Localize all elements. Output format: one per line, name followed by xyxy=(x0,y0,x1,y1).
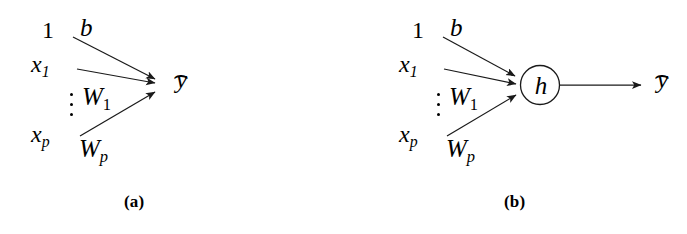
xp-input-label: xp xyxy=(31,122,50,146)
xp-base: x xyxy=(399,121,410,147)
dot xyxy=(70,93,73,96)
panel-a: 1 x1 xp b W1 Wp ⌢y (a) xyxy=(0,0,344,234)
wp-weight-label: Wp xyxy=(79,136,108,161)
x1-subscript: 1 xyxy=(42,63,50,80)
x1-subscript: 1 xyxy=(410,63,418,80)
x1-base: x xyxy=(31,51,42,77)
vertical-dots xyxy=(70,93,73,123)
dot xyxy=(70,103,73,106)
edge-bias xyxy=(443,37,515,76)
xp-base: x xyxy=(31,121,42,147)
x1-input-label: x1 xyxy=(31,52,50,76)
edge-bias xyxy=(73,37,155,79)
w1-weight-label: W1 xyxy=(449,84,478,109)
x1-base: x xyxy=(399,51,410,77)
wp-subscript: p xyxy=(467,147,475,166)
dot xyxy=(437,93,440,96)
wp-weight-label: Wp xyxy=(446,136,475,161)
w1-subscript: 1 xyxy=(470,95,478,114)
xp-input-label: xp xyxy=(399,122,418,146)
bias-weight-label: b xyxy=(450,15,463,40)
y-hat-wrap: ⌢y xyxy=(176,67,187,92)
x1-input-label: x1 xyxy=(399,52,418,76)
w1-base: W xyxy=(82,83,103,110)
wp-base: W xyxy=(79,135,100,162)
y-hat-wrap: ⌢y xyxy=(657,67,668,92)
dot xyxy=(437,103,440,106)
neural-unit-figure: 1 x1 xp b W1 Wp ⌢y (a) xyxy=(0,0,687,234)
xp-subscript: p xyxy=(42,133,50,150)
panel-a-caption: (a) xyxy=(124,192,144,212)
hidden-unit-label: h xyxy=(530,73,552,98)
dot xyxy=(70,113,73,116)
bias-input-label: 1 xyxy=(42,18,54,42)
w1-weight-label: W1 xyxy=(82,84,111,109)
wp-subscript: p xyxy=(100,147,108,166)
dot xyxy=(437,113,440,116)
bias-input-label: 1 xyxy=(412,18,424,42)
output-label: ⌢y xyxy=(657,67,668,92)
hat-accent: ⌢ xyxy=(654,64,670,88)
output-label: ⌢y xyxy=(176,67,187,92)
edge-x1 xyxy=(77,69,155,83)
w1-subscript: 1 xyxy=(103,95,111,114)
wp-base: W xyxy=(446,135,467,162)
vertical-dots xyxy=(437,93,440,123)
panel-b: h 1 x1 xp b W1 Wp ⌢y (b) xyxy=(344,0,687,234)
hat-accent: ⌢ xyxy=(173,64,189,88)
w1-base: W xyxy=(449,83,470,110)
bias-weight-label: b xyxy=(80,15,93,40)
panel-b-caption: (b) xyxy=(504,192,525,212)
xp-subscript: p xyxy=(410,133,418,150)
